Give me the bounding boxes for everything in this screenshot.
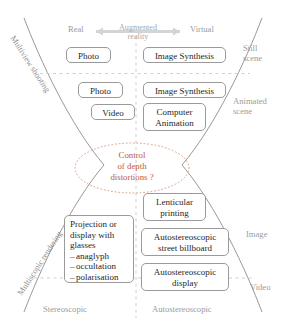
projection-head-line1: Projection or: [70, 219, 129, 230]
node-image-synthesis-animated[interactable]: Image Synthesis: [143, 82, 226, 98]
node-photo-animated[interactable]: Photo: [78, 82, 123, 98]
hub-label: Control of depth distortions ?: [82, 150, 182, 183]
lenticular-line1: Lenticular: [148, 197, 201, 208]
projection-item-occultation-label: occultation: [76, 261, 116, 271]
still-scene-line2: scene: [243, 54, 287, 64]
animated-scene-line2: scene: [233, 107, 289, 117]
node-computer-animation[interactable]: Computer Animation: [143, 103, 206, 131]
computer-animation-line1: Computer: [148, 107, 201, 118]
axis-label-real: Real: [68, 25, 84, 35]
node-projection-display-with-glasses[interactable]: Projection or display with glasses –anag…: [64, 215, 134, 283]
projection-item-polarisation: –polarisation: [70, 272, 129, 283]
node-video-animated[interactable]: Video: [91, 104, 135, 120]
node-photo-still[interactable]: Photo: [66, 47, 111, 63]
billboard-line2: street billboard: [146, 243, 224, 254]
projection-head-line3: glasses: [70, 240, 129, 251]
augmented-reality-line2: reality: [103, 33, 173, 42]
computer-animation-line2: Animation: [148, 118, 201, 129]
axis-label-stereoscopic: Stereoscopic: [43, 305, 87, 315]
billboard-line1: Autostereoscopic: [146, 232, 224, 243]
lenticular-line2: printing: [148, 208, 201, 219]
projection-item-polarisation-label: polarisation: [76, 272, 119, 282]
hub-line1: Control: [82, 150, 182, 161]
axis-label-still-scene: Still scene: [243, 44, 287, 64]
autostereo-display-line1: Autostereoscopic: [146, 267, 224, 278]
axis-label-image: Image: [246, 230, 267, 240]
node-lenticular-printing[interactable]: Lenticular printing: [143, 193, 206, 221]
hub-line3: distortions ?: [82, 172, 182, 183]
axis-label-animated-scene: Animated scene: [233, 97, 289, 117]
axis-label-virtual: Virtual: [190, 25, 214, 35]
hub-line2: of depth: [82, 161, 182, 172]
projection-item-anaglyph: –anaglyph: [70, 251, 129, 262]
projection-item-anaglyph-label: anaglyph: [76, 251, 109, 261]
node-image-synthesis-still[interactable]: Image Synthesis: [143, 47, 226, 63]
projection-items: –anaglyph –occultation –polarisation: [70, 251, 129, 283]
node-autostereoscopic-street-billboard[interactable]: Autostereoscopic street billboard: [141, 228, 229, 256]
axis-label-video: Video: [250, 283, 271, 293]
projection-head-line2: display with: [70, 230, 129, 241]
node-autostereoscopic-display[interactable]: Autostereoscopic display: [141, 263, 229, 291]
axis-label-autostereoscopic: Autostereoscopic: [152, 305, 212, 315]
augmented-reality-label: Augmented reality: [103, 24, 173, 41]
autostereo-display-line2: display: [146, 278, 224, 289]
projection-item-occultation: –occultation: [70, 261, 129, 272]
diagram-canvas: Real Augmented reality Virtual Still sce…: [0, 0, 289, 327]
